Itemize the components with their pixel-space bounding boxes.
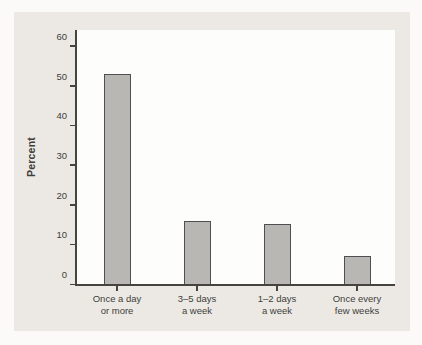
y-axis-tick (70, 85, 75, 87)
x-axis-tick (276, 286, 278, 291)
y-axis-tick-label: 30 (37, 151, 67, 161)
y-axis-tick-label: 60 (37, 32, 67, 42)
bar (184, 221, 211, 285)
y-axis-tick-label: 40 (37, 111, 67, 121)
y-axis-tick-label: 50 (37, 72, 67, 82)
y-axis-title: Percent (25, 97, 37, 217)
y-axis-tick (70, 244, 75, 246)
figure: Percent 0102030405060Once a day or more3… (0, 0, 422, 345)
x-axis-tick (196, 286, 198, 291)
y-axis-tick-label: 10 (37, 230, 67, 240)
y-axis-tick-label: 0 (37, 270, 67, 280)
bar (344, 256, 371, 284)
y-axis-tick (70, 204, 75, 206)
x-axis-tick (356, 286, 358, 291)
bar (104, 74, 131, 284)
y-axis-tick-label: 20 (37, 191, 67, 201)
plot-area: Percent 0102030405060Once a day or more3… (75, 30, 395, 286)
y-axis-tick (70, 125, 75, 127)
x-axis-category-label: Once every few weeks (309, 293, 405, 316)
y-axis-tick (70, 284, 75, 286)
chart-panel: Percent 0102030405060Once a day or more3… (14, 12, 410, 331)
y-axis-tick (70, 164, 75, 166)
x-axis-tick (116, 286, 118, 291)
y-axis-tick (70, 45, 75, 47)
bar (264, 224, 291, 284)
